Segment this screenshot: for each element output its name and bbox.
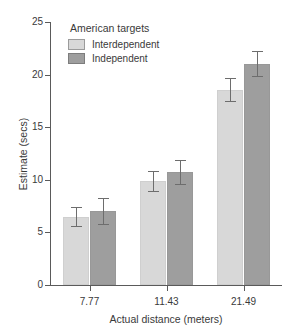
bar-independent-7.77 bbox=[90, 211, 116, 285]
x-tick-mark bbox=[167, 286, 168, 291]
x-tick-label: 7.77 bbox=[60, 296, 120, 307]
bar-interdependent-7.77 bbox=[63, 217, 89, 285]
error-bar-cap-top bbox=[71, 207, 82, 208]
x-tick-mark bbox=[90, 286, 91, 291]
legend-item-independent: Independent bbox=[68, 53, 198, 64]
legend-title: American targets bbox=[70, 22, 198, 34]
error-bar-cap-top bbox=[252, 51, 263, 52]
chart-legend: American targets InterdependentIndepende… bbox=[68, 22, 198, 67]
y-tick-mark bbox=[45, 127, 50, 128]
error-bar-cap-top bbox=[98, 198, 109, 199]
y-tick-label: 5 bbox=[23, 227, 43, 237]
y-tick-label: 0 bbox=[23, 280, 43, 290]
y-tick-mark bbox=[45, 180, 50, 181]
legend-label: Interdependent bbox=[92, 39, 159, 50]
legend-label: Independent bbox=[92, 53, 148, 64]
y-tick-label: 20 bbox=[23, 70, 43, 80]
x-tick-label: 21.49 bbox=[214, 296, 274, 307]
bar-interdependent-21.49 bbox=[217, 90, 243, 285]
y-tick-mark bbox=[45, 232, 50, 233]
y-tick-mark bbox=[45, 22, 50, 23]
y-axis-title: Estimate (secs) bbox=[17, 84, 29, 224]
bar-interdependent-11.43 bbox=[140, 181, 166, 285]
error-bar-cap-top bbox=[148, 171, 159, 172]
y-tick-mark bbox=[45, 75, 50, 76]
error-bar-cap-top bbox=[225, 78, 236, 79]
y-tick-label: 25 bbox=[23, 17, 43, 27]
x-tick-mark bbox=[244, 286, 245, 291]
error-bar-cap-top bbox=[175, 160, 186, 161]
legend-swatch-interdependent bbox=[68, 39, 85, 50]
bar-independent-21.49 bbox=[244, 64, 270, 285]
legend-item-interdependent: Interdependent bbox=[68, 39, 198, 50]
x-tick-label: 11.43 bbox=[137, 296, 197, 307]
legend-swatch-independent bbox=[68, 53, 85, 64]
x-axis-title: Actual distance (meters) bbox=[50, 313, 282, 325]
bar-independent-11.43 bbox=[167, 172, 193, 285]
legend-entries: InterdependentIndependent bbox=[68, 39, 198, 64]
bar-chart-figure: 0510152025 7.7711.4321.49 Estimate (secs… bbox=[0, 0, 287, 336]
